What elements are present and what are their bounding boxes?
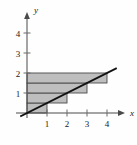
- x-tick-label-1: 1: [45, 119, 50, 129]
- y-tick-labels-group: 1 2 3 4: [16, 29, 21, 99]
- x-tick-label-2: 2: [65, 119, 70, 129]
- y-tick-label-4: 4: [16, 29, 21, 39]
- y-tick-label-2: 2: [16, 69, 21, 79]
- y-axis-label: y: [33, 5, 38, 15]
- x-tick-labels-group: 1 2 3 4: [45, 119, 110, 129]
- riemann-sum-chart: 1 2 3 4 1 2 3 4 y x: [0, 0, 137, 145]
- rectangle-bar-2: [27, 93, 67, 103]
- x-axis-label: x: [129, 108, 134, 118]
- y-tick-label-1: 1: [16, 89, 21, 99]
- x-tick-label-4: 4: [105, 119, 110, 129]
- rectangle-bar-4: [27, 73, 107, 83]
- x-axis-arrow-icon: [118, 110, 125, 116]
- y-tick-label-3: 3: [16, 49, 21, 59]
- figure-container: 1 2 3 4 1 2 3 4 y x: [0, 0, 137, 145]
- y-axis-arrow-icon: [24, 12, 30, 19]
- x-tick-label-3: 3: [85, 119, 90, 129]
